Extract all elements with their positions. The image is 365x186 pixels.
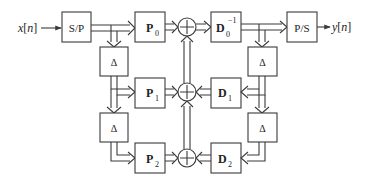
delay-right-1-to-d1-bus [241, 76, 265, 98]
delay-right-2: Δ [248, 113, 277, 142]
delay-left-2: Δ [100, 113, 128, 142]
delay-right-2-to-d2-bus [241, 142, 265, 164]
d0-to-delay-right-1-bus [255, 24, 269, 47]
svg-text:2: 2 [228, 160, 232, 169]
delay-right-1-to-delay-right-2-bus [255, 89, 269, 113]
output-label: y[n] [331, 20, 351, 34]
block-diagram: x[n] S/P P 0 D 0 −1 [0, 0, 365, 186]
sp-to-delay-left-1-bus [107, 25, 121, 47]
d0-inverse-block: D 0 −1 [211, 12, 241, 42]
summer-0 [178, 18, 196, 36]
svg-text:P/S: P/S [294, 22, 309, 34]
p1-block: P 1 [135, 78, 165, 108]
svg-text:Δ: Δ [259, 123, 266, 134]
summer-2 [178, 149, 196, 167]
svg-text:Δ: Δ [259, 57, 266, 68]
sp-to-p0-bus [91, 21, 135, 35]
svg-text:Δ: Δ [111, 57, 118, 68]
input-label: x[n] [17, 21, 37, 35]
delay-left-2-to-p2-bus [111, 142, 135, 164]
serial-to-parallel-block: S/P [62, 12, 91, 42]
sum1-to-sum0-bus [181, 36, 193, 83]
svg-text:2: 2 [155, 160, 159, 169]
svg-text:P: P [146, 86, 153, 100]
parallel-to-serial-block: P/S [287, 12, 317, 42]
input-signal: x[n] [17, 21, 61, 35]
sum0-to-d0-bus [196, 21, 211, 33]
summer-1 [178, 83, 196, 101]
svg-text:P: P [146, 152, 153, 166]
d2-to-sum2-bus [196, 152, 211, 164]
p2-to-sum2-bus [165, 152, 178, 164]
svg-text:1: 1 [228, 94, 232, 103]
svg-text:P: P [146, 21, 153, 35]
d1-to-sum1-bus [196, 86, 211, 98]
p2-block: P 2 [135, 143, 165, 173]
svg-text:D: D [218, 86, 227, 100]
delay-left-1-to-p1-bus [111, 76, 135, 98]
svg-text:S/P: S/P [69, 22, 84, 34]
svg-text:0: 0 [155, 29, 159, 38]
svg-text:D: D [216, 21, 225, 35]
delay-left-1-to-delay-left-2-bus [107, 89, 121, 113]
p1-to-sum1-bus [165, 86, 178, 98]
svg-text:0: 0 [226, 30, 230, 39]
output-signal: y[n] [317, 20, 351, 34]
d0-to-ps-bus [241, 21, 287, 33]
d2-block: D 2 [211, 143, 241, 173]
delay-left-1: Δ [100, 47, 128, 76]
p0-to-sum0-bus [165, 21, 178, 33]
svg-text:−1: −1 [228, 16, 237, 25]
p0-block: P 0 [135, 12, 165, 42]
d1-block: D 1 [211, 78, 241, 108]
svg-text:D: D [218, 152, 227, 166]
svg-text:1: 1 [155, 94, 159, 103]
delay-right-1: Δ [248, 47, 277, 76]
sum2-to-sum1-bus [181, 101, 193, 149]
svg-text:Δ: Δ [111, 123, 118, 134]
